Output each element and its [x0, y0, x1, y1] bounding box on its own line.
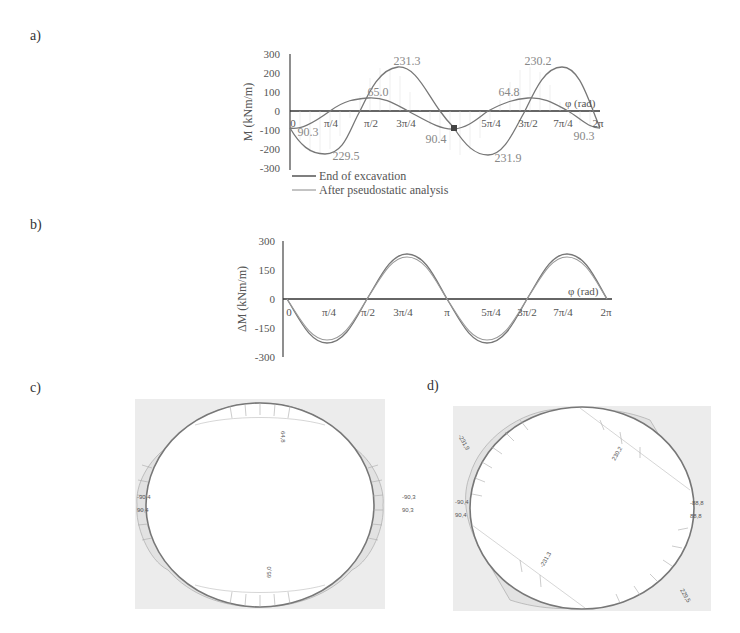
- svg-text:65.0: 65.0: [368, 85, 389, 99]
- svg-text:3π/2: 3π/2: [517, 306, 537, 318]
- svg-text:π/4: π/4: [322, 306, 337, 318]
- chart-b: ΔM (kNm/m) 300 150 0 -150 -300 0 π/4 π/2…: [235, 235, 612, 363]
- svg-text:After pseudostatic analysis: After pseudostatic analysis: [319, 183, 449, 197]
- svg-text:π: π: [444, 306, 450, 318]
- svg-text:End of excavation: End of excavation: [319, 169, 406, 183]
- diagram-c-label-right-upper: -90,3: [402, 494, 416, 500]
- svg-text:90.3: 90.3: [574, 129, 595, 143]
- svg-text:300: 300: [259, 235, 276, 247]
- diagram-c: 64,8 65,0 -90,4 90,4 -90,3 90,3: [135, 399, 416, 609]
- chart-b-yticks: 300 150 0 -150 -300: [255, 235, 276, 363]
- svg-text:7π/4: 7π/4: [553, 117, 573, 129]
- chart-a-xlabel: φ (rad): [565, 97, 596, 110]
- svg-text:0: 0: [275, 105, 281, 117]
- svg-text:π/2: π/2: [364, 117, 378, 129]
- svg-text:231.3: 231.3: [394, 54, 421, 68]
- svg-text:-300: -300: [255, 351, 276, 363]
- chart-b-xticks: 0 π/4 π/2 3π/4 π 5π/4 3π/2 7π/4 2π: [286, 306, 612, 318]
- svg-text:2π: 2π: [600, 306, 612, 318]
- svg-text:90.3: 90.3: [298, 125, 319, 139]
- svg-text:7π/4: 7π/4: [553, 306, 573, 318]
- diagram-c-label-bottom: 65,0: [266, 566, 272, 578]
- diagram-d-lining: [470, 407, 694, 609]
- chart-a-legend: End of excavation After pseudostatic ana…: [292, 169, 449, 197]
- svg-text:3π/2: 3π/2: [518, 117, 538, 129]
- chart-b-ylabel: ΔM (kNm/m): [235, 266, 249, 332]
- svg-text:-150: -150: [255, 322, 276, 334]
- diagram-c-label-left-upper: -90,4: [137, 494, 151, 500]
- diagram-d: -231,9 230,2 -90,4 90,4 -88,8 88,8 -231,…: [453, 406, 711, 611]
- diagram-d-label-right-lower: 88,8: [690, 513, 702, 519]
- svg-text:200: 200: [264, 67, 281, 79]
- chart-a-marker: [451, 125, 457, 131]
- svg-text:230.2: 230.2: [525, 54, 552, 68]
- diagram-c-label-right-lower: 90,3: [402, 507, 414, 513]
- svg-text:100: 100: [264, 86, 281, 98]
- svg-text:π/2: π/2: [361, 306, 375, 318]
- diagram-c-label-top: 64,8: [280, 431, 286, 443]
- svg-text:π/4: π/4: [324, 117, 339, 129]
- svg-text:0: 0: [270, 293, 276, 305]
- diagram-d-label-left-upper: -90,4: [455, 499, 469, 505]
- svg-text:3π/4: 3π/4: [393, 306, 413, 318]
- diagram-d-label-left-lower: 90,4: [455, 512, 467, 518]
- svg-text:5π/4: 5π/4: [481, 306, 501, 318]
- diagram-c-lining: [146, 403, 374, 607]
- svg-text:150: 150: [259, 264, 276, 276]
- chart-a-ylabel: M (kNm/m): [241, 83, 255, 141]
- svg-text:231.9: 231.9: [495, 151, 522, 165]
- svg-text:-100: -100: [260, 124, 281, 136]
- svg-text:0: 0: [290, 117, 296, 129]
- figure-canvas: M (kNm/m) 300 200 100 0 -100 -200 -300: [0, 0, 740, 633]
- svg-text:-300: -300: [260, 162, 281, 174]
- svg-text:2π: 2π: [592, 117, 604, 129]
- svg-text:0: 0: [286, 306, 292, 318]
- svg-text:3π/4: 3π/4: [396, 117, 416, 129]
- svg-text:229.5: 229.5: [333, 149, 360, 163]
- svg-text:64.8: 64.8: [499, 85, 520, 99]
- diagram-c-label-left-lower: 90,4: [137, 507, 149, 513]
- diagram-d-label-right-upper: -88,8: [690, 500, 704, 506]
- chart-b-xlabel: φ (rad): [568, 285, 599, 298]
- chart-a-xticks: 0 π/4 π/2 3π/4 5π/4 3π/2 7π/4 2π: [290, 117, 604, 129]
- chart-a-yticks: 300 200 100 0 -100 -200 -300: [260, 48, 281, 174]
- svg-text:90.4: 90.4: [426, 132, 447, 146]
- svg-text:300: 300: [264, 48, 281, 60]
- svg-text:-200: -200: [260, 143, 281, 155]
- chart-a: M (kNm/m) 300 200 100 0 -100 -200 -300: [241, 48, 604, 197]
- svg-text:5π/4: 5π/4: [481, 117, 501, 129]
